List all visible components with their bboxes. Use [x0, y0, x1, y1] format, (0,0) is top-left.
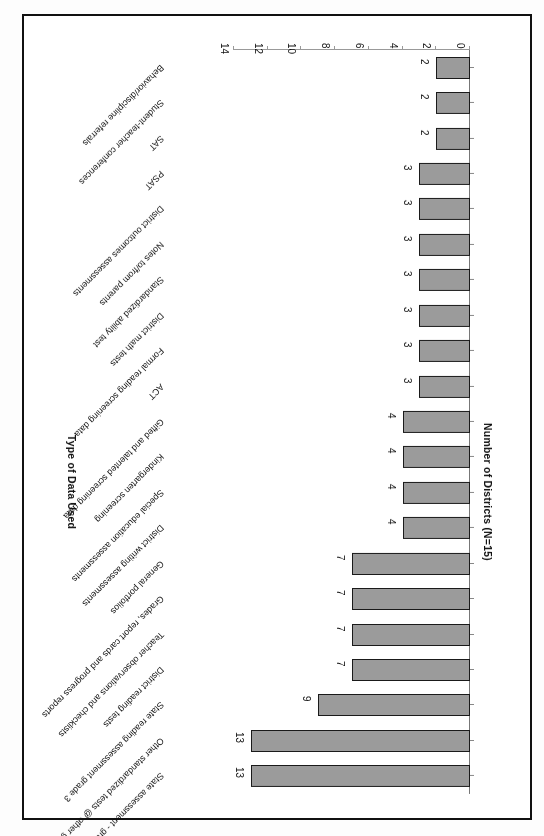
bar-value-label: 4: [386, 448, 397, 454]
category-tick: [470, 173, 474, 174]
category-tick: [470, 315, 474, 316]
bar-value-label: 3: [402, 378, 413, 384]
bar: [352, 624, 470, 646]
bar: [419, 305, 470, 327]
category-tick: [470, 669, 474, 670]
bar: [436, 57, 470, 79]
bar: [403, 482, 470, 504]
value-tick: [402, 46, 403, 50]
value-tick-label: 0: [455, 43, 466, 49]
bar-row: 3Standardized ability test: [234, 263, 470, 298]
value-tick: [469, 46, 470, 50]
category-tick: [470, 598, 474, 599]
bar-value-label: 4: [386, 413, 397, 419]
bar: [318, 694, 470, 716]
bar: [419, 376, 470, 398]
bar-value-label: 9: [301, 696, 312, 702]
category-tick: [470, 102, 474, 103]
bar: [352, 659, 470, 681]
value-tick: [368, 46, 369, 50]
category-tick: [470, 492, 474, 493]
category-tick: [470, 279, 474, 280]
bar-value-label: 7: [335, 661, 346, 667]
category-tick: [470, 527, 474, 528]
category-tick: [470, 456, 474, 457]
category-tick: [470, 704, 474, 705]
bar-row: 2SAT: [234, 121, 470, 156]
bar-value-label: 13: [234, 732, 245, 743]
value-tick: [435, 46, 436, 50]
bar-row: 13State assessment - grades 4,8,10: [234, 759, 470, 794]
category-tick: [470, 563, 474, 564]
bar-row: 3District outcomes assessments: [234, 192, 470, 227]
value-tick-label: 4: [388, 43, 399, 49]
bar: [419, 269, 470, 291]
bar-value-label: 3: [402, 200, 413, 206]
bar-value-label: 7: [335, 590, 346, 596]
bar-row: 9State reading assessment grade 3: [234, 688, 470, 723]
category-tick: [470, 138, 474, 139]
bar-row: 4Gifted and talented screening data: [234, 404, 470, 439]
bar-value-label: 7: [335, 626, 346, 632]
bar-value-label: 2: [419, 59, 430, 65]
bar-row: 4District writing assessments: [234, 511, 470, 546]
value-tick-label: 8: [320, 43, 331, 49]
bar-value-label: 3: [402, 307, 413, 313]
bar: [419, 198, 470, 220]
category-tick: [470, 350, 474, 351]
bar-row: 3District math tests: [234, 298, 470, 333]
y-axis-title: Number of Districts (N=15): [482, 392, 494, 592]
plot-area: 13State assessment - grades 4,8,1013Othe…: [234, 50, 470, 794]
bar-value-label: 3: [402, 342, 413, 348]
category-tick: [470, 775, 474, 776]
category-tick: [470, 386, 474, 387]
figure-frame: Number of Districts (N=15) Type of Data …: [22, 14, 532, 820]
bar-row: 3PSAT: [234, 156, 470, 191]
value-tick: [233, 46, 234, 50]
bar: [251, 765, 470, 787]
value-tick-label: 10: [286, 43, 297, 54]
category-tick: [470, 634, 474, 635]
category-label: Notes to/from parents: [98, 240, 166, 308]
bar: [419, 163, 470, 185]
category-label: ACT: [146, 382, 166, 402]
bar-value-label: 4: [386, 519, 397, 525]
category-tick: [470, 244, 474, 245]
bar-value-label: 3: [402, 271, 413, 277]
bar-row: 2Student-teacher conferences: [234, 85, 470, 120]
bar-row: 2Behavior/discipline referrals: [234, 50, 470, 85]
value-tick: [267, 46, 268, 50]
bar-row: 3Formal reading screening data: [234, 333, 470, 368]
bar: [436, 128, 470, 150]
x-axis-title: Type of Data Used: [66, 382, 78, 582]
bar: [352, 588, 470, 610]
category-label: Grades, report cards and progress report…: [40, 594, 166, 720]
chart-page: Number of Districts (N=15) Type of Data …: [0, 0, 544, 836]
category-label: District reading tests: [101, 665, 166, 730]
value-tick-label: 2: [421, 43, 432, 49]
chart-plate: Number of Districts (N=15) Type of Data …: [24, 16, 530, 818]
bar-row: 13Other standardized tests @ other grade…: [234, 723, 470, 758]
value-tick: [300, 46, 301, 50]
bar-row: 7Grades, report cards and progress repor…: [234, 581, 470, 616]
bar: [419, 234, 470, 256]
category-label: SAT: [147, 134, 166, 153]
bar: [251, 730, 470, 752]
value-tick-label: 12: [253, 43, 264, 54]
bar-value-label: 3: [402, 236, 413, 242]
bar-value-label: 4: [386, 484, 397, 490]
bar-row: 4Special education assessments: [234, 475, 470, 510]
category-label: Standardized ability test: [91, 275, 166, 350]
bar: [403, 411, 470, 433]
bar-row: 7General portfolios: [234, 546, 470, 581]
category-label: Kindergarten screening: [93, 452, 166, 525]
category-tick: [470, 67, 474, 68]
bar-row: 7Teacher observations and checklists: [234, 617, 470, 652]
bar: [403, 446, 470, 468]
value-axis: 02468101214: [234, 20, 470, 50]
category-tick: [470, 740, 474, 741]
bar-value-label: 13: [234, 767, 245, 778]
bar: [419, 340, 470, 362]
value-tick-label: 14: [219, 43, 230, 54]
bar: [403, 517, 470, 539]
